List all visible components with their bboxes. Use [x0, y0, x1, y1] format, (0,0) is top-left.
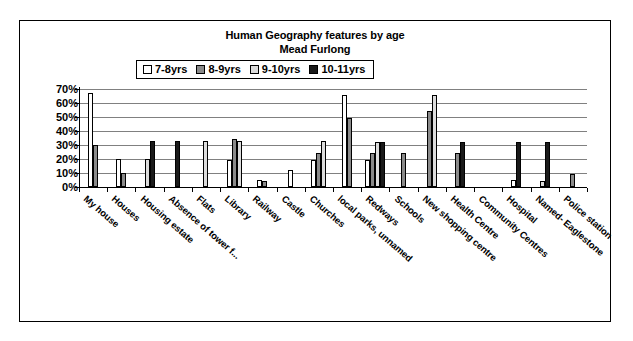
x-axis-tick: [474, 188, 475, 192]
chart-frame: Human Geography features by age Mead Fur…: [19, 20, 611, 322]
x-axis-tick: [361, 188, 362, 192]
x-axis-tick: [418, 188, 419, 192]
bar: [460, 142, 465, 187]
x-axis-tick: [587, 188, 588, 192]
bar-group: [559, 89, 587, 187]
bar-group: [531, 89, 559, 187]
x-axis-tick: [559, 188, 560, 192]
bar-group: [502, 89, 530, 187]
x-axis-tick: [79, 188, 80, 192]
bar-group: [79, 89, 107, 187]
x-axis-tick: [446, 188, 447, 192]
bar-group: [248, 89, 276, 187]
bar-group: [418, 89, 446, 187]
bar-group: [192, 89, 220, 187]
bar-group: [361, 89, 389, 187]
bar: [237, 141, 242, 187]
x-axis-tick: [305, 188, 306, 192]
bar: [288, 170, 293, 187]
bar: [203, 141, 208, 187]
y-axis-tick: [75, 159, 79, 160]
bar-group: [305, 89, 333, 187]
y-axis-tick: [75, 103, 79, 104]
bar: [545, 142, 550, 187]
x-axis-tick: [107, 188, 108, 192]
x-axis-tick: [248, 188, 249, 192]
x-tick-label: Flats: [195, 193, 219, 216]
y-axis-line: [79, 87, 80, 188]
x-axis-tick: [389, 188, 390, 192]
bar: [516, 142, 521, 187]
bar: [432, 95, 437, 187]
plot-area: [79, 89, 587, 187]
bar-group: [135, 89, 163, 187]
bar-group: [333, 89, 361, 187]
y-axis-tick: [75, 173, 79, 174]
x-axis-tick: [531, 188, 532, 192]
bar: [380, 142, 385, 187]
bar-group: [107, 89, 135, 187]
y-axis-labels: 70%60%50%40%30%20%10%0%: [34, 89, 78, 187]
bar-group: [474, 89, 502, 187]
y-axis-tick: [75, 89, 79, 90]
bar: [93, 145, 98, 187]
x-axis-tick: [220, 188, 221, 192]
bar: [150, 141, 155, 187]
bar-group: [277, 89, 305, 187]
x-axis-labels: My houseHousesHousing estateAbsence of t…: [79, 193, 587, 313]
bar-group: [220, 89, 248, 187]
y-axis-tick: [75, 117, 79, 118]
x-axis-tick: [135, 188, 136, 192]
plot-wrapper: 70%60%50%40%30%20%10%0% My houseHousesHo…: [20, 21, 612, 323]
x-axis-tick: [277, 188, 278, 192]
bar-group: [389, 89, 417, 187]
x-axis-tick: [502, 188, 503, 192]
y-axis-tick: [75, 131, 79, 132]
bar: [347, 118, 352, 187]
bar: [121, 173, 126, 187]
bar-group: [164, 89, 192, 187]
bar: [401, 153, 406, 187]
bar-group: [446, 89, 474, 187]
x-axis-tick: [164, 188, 165, 192]
x-axis-tick: [333, 188, 334, 192]
x-axis-tick: [192, 188, 193, 192]
y-axis-tick: [75, 145, 79, 146]
bar: [321, 141, 326, 187]
x-tick-label: Library: [223, 193, 254, 222]
x-tick-label: Railway: [251, 193, 284, 224]
bar: [570, 174, 575, 187]
bar: [175, 141, 180, 187]
